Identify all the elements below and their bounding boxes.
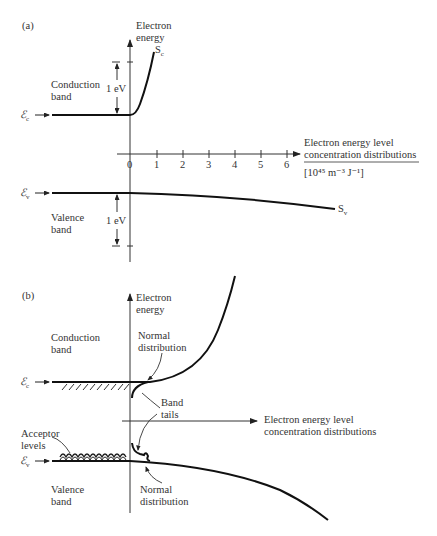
panel-b-x-axis-label: Electron energy level concentration dist… [264, 414, 376, 438]
x-tick-1: 1 [154, 159, 159, 171]
panel-a-1ev-upper: 1 eV [106, 83, 126, 95]
x-tick-6: 6 [284, 159, 289, 171]
panel-b-acceptor-levels: Acceptor levels [21, 428, 59, 452]
x-tick-4: 4 [232, 159, 237, 171]
panel-b-valence-band-label: Valence band [51, 484, 84, 508]
panel-b-band-tails: Band tails [161, 397, 183, 421]
panel-a-valence-band-label: Valence band [51, 212, 84, 236]
panel-b-ev-symbol: ℰv [20, 455, 30, 471]
sc-label: Sc [155, 44, 164, 60]
panel-b-normal-distribution-upper: Normal distribution [138, 330, 186, 354]
panel-a-label: (a) [22, 20, 34, 32]
panel-b-normal-distribution-lower: Normal distribution [140, 484, 188, 508]
lower-band-tail [132, 443, 150, 461]
panel-a-ev-symbol: ℰv [20, 187, 30, 203]
x-tick-5: 5 [258, 159, 263, 171]
x-tick-2: 2 [180, 159, 185, 171]
ec-hatching [62, 384, 129, 390]
panel-b-label: (b) [22, 290, 34, 302]
panel-a-conduction-band-label: Conduction band [51, 79, 100, 103]
panel-a-x-axis-units: [10⁴⁵ m⁻³ J⁻¹] [304, 167, 364, 179]
panel-b-y-axis-label: Electron energy [136, 292, 172, 316]
panel-a-x-axis-label: Electron energy level concentration dist… [304, 137, 416, 161]
x-tick-0: 0 [127, 159, 132, 171]
panel-b-conduction-band-label: Conduction band [51, 332, 100, 356]
panel-b-ec-symbol: ℰc [20, 376, 29, 392]
sv-curve [52, 193, 335, 209]
x-tick-3: 3 [206, 159, 211, 171]
sv-label: Sv [338, 203, 347, 219]
panel-a-y-axis-label: Electron energy [136, 20, 172, 44]
panel-a-ec-symbol: ℰc [20, 109, 29, 125]
panel-a-1ev-lower: 1 eV [106, 215, 126, 227]
